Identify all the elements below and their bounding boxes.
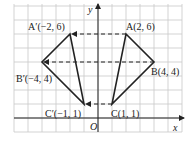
label-b: B(4, 4)	[151, 66, 179, 78]
label-c: C(1, 1)	[111, 108, 139, 120]
triangle-abc	[112, 34, 154, 104]
coordinate-diagram: A′(−2, 6) A(2, 6) B′(−4, 4) B(4, 4) C′(−…	[0, 0, 188, 143]
x-axis-label: x	[172, 122, 178, 133]
origin-label: O	[90, 121, 97, 132]
label-b-prime: B′(−4, 4)	[16, 73, 52, 85]
label-c-prime: C′(−1, 1)	[45, 108, 81, 120]
label-a-prime: A′(−2, 6)	[28, 21, 65, 33]
y-axis-label: y	[87, 4, 93, 15]
triangle-a-primeb-primec-prime	[42, 34, 84, 104]
label-a: A(2, 6)	[126, 21, 155, 33]
